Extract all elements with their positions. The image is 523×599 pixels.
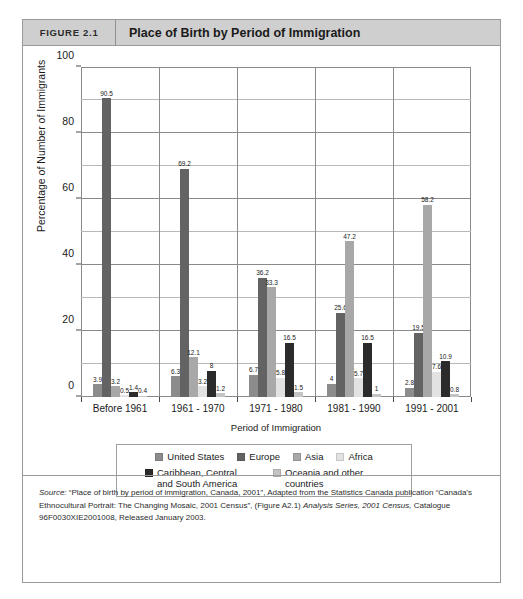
- legend-label: Europe: [249, 451, 280, 462]
- bar[interactable]: 36.2: [258, 278, 267, 397]
- legend-label: Asia: [305, 451, 323, 462]
- bar[interactable]: 4: [327, 384, 336, 397]
- bar-value-label: 3.2: [198, 379, 207, 387]
- bar[interactable]: 16.5: [363, 343, 372, 397]
- bar[interactable]: 3.2: [198, 386, 207, 397]
- bar[interactable]: 2.8: [405, 388, 414, 397]
- x-axis-title: Period of Immigration: [81, 422, 471, 433]
- bar-set: 6.736.233.35.816.51.5: [237, 67, 315, 397]
- x-axis-tick: [237, 397, 238, 402]
- bar[interactable]: 69.2: [180, 169, 189, 397]
- x-axis-tick-label: 1981 - 1990: [315, 403, 393, 414]
- bar[interactable]: 10.9: [441, 361, 450, 397]
- bar[interactable]: 3.9: [93, 384, 102, 397]
- bar[interactable]: 0.8: [450, 394, 459, 397]
- bar[interactable]: 58.2: [423, 205, 432, 397]
- x-axis-tick: [315, 397, 316, 402]
- bar-value-label: 0.8: [450, 387, 459, 395]
- bar-value-label: 33.3: [265, 280, 278, 288]
- bar-value-label: 6.7: [249, 367, 258, 375]
- bar-value-label: 5.8: [276, 370, 285, 378]
- bar[interactable]: 19.5: [414, 333, 423, 397]
- bar[interactable]: 47.2: [345, 241, 354, 397]
- bar-value-label: 36.2: [256, 270, 269, 278]
- bar-value-label: 69.2: [178, 161, 191, 169]
- plot-wrap: 020406080100 3.990.53.20.51.40.46.369.21…: [81, 67, 471, 397]
- bar-value-label: 0.5: [120, 388, 129, 396]
- legend-swatch-icon: [155, 453, 163, 461]
- bar[interactable]: 1.2: [216, 393, 225, 397]
- figure-title-bar: FIGURE 2.1 Place of Birth by Period of I…: [23, 20, 500, 46]
- bar[interactable]: 6.7: [249, 375, 258, 397]
- bar-value-label: 12.1: [187, 350, 200, 358]
- y-axis-title: Percentage of Number of Immigrants: [35, 60, 47, 232]
- bar[interactable]: 6.3: [171, 376, 180, 397]
- y-axis-tick-label: 100: [56, 49, 74, 61]
- bar[interactable]: 7.6: [432, 372, 441, 397]
- bar[interactable]: 1.5: [294, 392, 303, 397]
- figure-number: FIGURE 2.1: [23, 27, 115, 38]
- bar[interactable]: 16.5: [285, 343, 294, 397]
- bar[interactable]: 8: [207, 371, 216, 397]
- x-axis-tick-label: 1961 - 1970: [159, 403, 237, 414]
- bar[interactable]: 12.1: [189, 357, 198, 397]
- bar[interactable]: 3.2: [111, 386, 120, 397]
- x-axis-labels: Before 19611961 - 19701971 - 19801981 - …: [81, 403, 471, 414]
- bar-value-label: 3.2: [111, 379, 120, 387]
- bar[interactable]: 33.3: [267, 287, 276, 397]
- x-axis-tick-label: 1991 - 2001: [393, 403, 471, 414]
- x-axis-tick: [393, 397, 394, 402]
- bar[interactable]: 5.7: [354, 378, 363, 397]
- legend-item[interactable]: Asia: [293, 451, 323, 462]
- bar-groups: 3.990.53.20.51.40.46.369.212.13.281.26.7…: [81, 67, 471, 397]
- legend-swatch-icon: [237, 453, 245, 461]
- y-axis-tick-label: 20: [62, 313, 74, 325]
- bar-set: 425.647.25.716.51: [315, 67, 393, 397]
- y-axis-tick-label: 0: [68, 379, 74, 391]
- bar-value-label: 47.2: [343, 234, 356, 242]
- bar-value-label: 8: [210, 363, 214, 371]
- x-axis-tick: [471, 397, 472, 402]
- bar-value-label: 1.4: [129, 385, 138, 393]
- chart-container: Percentage of Number of Immigrants 02040…: [23, 46, 500, 475]
- bar-value-label: 0.4: [138, 388, 147, 396]
- x-axis-tick: [81, 397, 82, 402]
- bar[interactable]: 1.4: [129, 392, 138, 397]
- bar[interactable]: 1: [372, 394, 381, 397]
- bar[interactable]: 5.8: [276, 378, 285, 397]
- bar-value-label: 58.2: [421, 197, 434, 205]
- bar-value-label: 7.6: [432, 364, 441, 372]
- bar-value-label: 6.3: [171, 369, 180, 377]
- legend-row-primary: United StatesEuropeAsiaAfrica: [125, 451, 403, 462]
- figure-frame: FIGURE 2.1 Place of Birth by Period of I…: [22, 19, 501, 583]
- legend-item[interactable]: United States: [155, 451, 224, 462]
- bar[interactable]: 0.5: [120, 395, 129, 397]
- x-axis-tick-label: 1971 - 1980: [237, 403, 315, 414]
- bar-group: 3.990.53.20.51.40.4: [81, 67, 159, 397]
- bar-value-label: 5.7: [354, 371, 363, 379]
- bar-value-label: 4: [330, 376, 334, 384]
- bar[interactable]: 0.4: [138, 396, 147, 397]
- bar-value-label: 2.8: [405, 380, 414, 388]
- bar-group: 6.736.233.35.816.51.5: [237, 67, 315, 397]
- source-text-italic: Analysis Series, 2001 Census,: [303, 501, 412, 510]
- bar[interactable]: 25.6: [336, 313, 345, 397]
- bar-group: 425.647.25.716.51: [315, 67, 393, 397]
- y-axis-tick-label: 40: [62, 247, 74, 259]
- bar-value-label: 1.5: [294, 385, 303, 393]
- x-axis-tick: [159, 397, 160, 402]
- legend-item[interactable]: Europe: [237, 451, 280, 462]
- source-note: Source: “Place of birth by period of imm…: [23, 475, 500, 525]
- y-axis-tick-label: 80: [62, 115, 74, 127]
- legend-item[interactable]: Africa: [336, 451, 372, 462]
- bar-value-label: 10.9: [439, 354, 452, 362]
- bar-value-label: 3.9: [93, 377, 102, 385]
- source-label: Source:: [39, 488, 67, 497]
- bar-value-label: 1: [375, 386, 379, 394]
- bar[interactable]: 90.5: [102, 98, 111, 397]
- bar-value-label: 16.5: [361, 335, 374, 343]
- legend-swatch-icon: [293, 453, 301, 461]
- page-title: Place of Birth by Period of Immigration: [116, 26, 360, 40]
- bar-value-label: 1.2: [216, 386, 225, 394]
- legend-label: United States: [167, 451, 224, 462]
